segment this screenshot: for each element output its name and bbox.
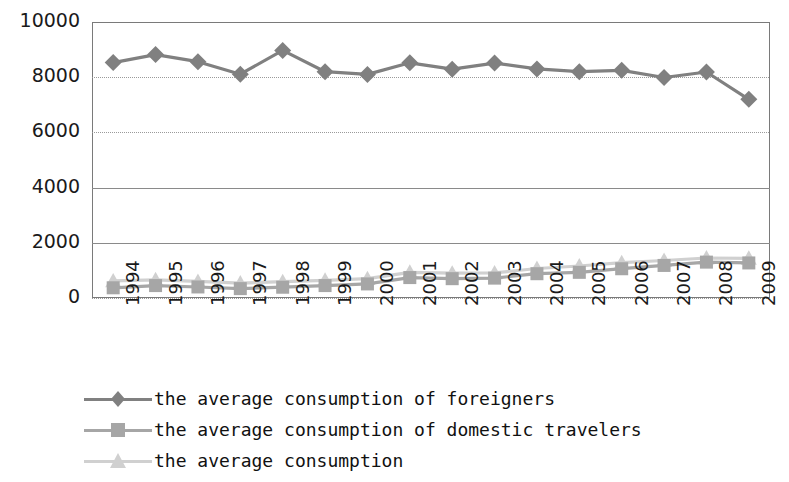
legend-item-1: the average consumption of foreigners bbox=[82, 383, 782, 414]
y-axis-tick-label: 0 bbox=[68, 285, 80, 307]
data-point-marker bbox=[488, 272, 501, 285]
x-axis-tick-label: 2004 bbox=[546, 260, 567, 306]
x-axis-tick-label: 1995 bbox=[165, 260, 186, 306]
x-axis-tick-label: 2007 bbox=[673, 260, 694, 306]
data-point-marker bbox=[530, 267, 543, 280]
data-point-marker bbox=[658, 259, 671, 272]
x-axis-tick-label: 1997 bbox=[249, 260, 270, 306]
data-point-marker bbox=[234, 282, 247, 295]
x-axis-tick-label: 1998 bbox=[292, 260, 313, 306]
data-point-marker bbox=[276, 281, 289, 294]
x-axis-tick-label: 2000 bbox=[376, 260, 397, 306]
x-axis-tick-label: 2005 bbox=[588, 260, 609, 306]
legend-marker-triangle-icon bbox=[82, 448, 154, 474]
data-point-marker bbox=[615, 262, 628, 275]
x-axis-tick-label: 2009 bbox=[758, 260, 779, 306]
legend-item-3: the average consumption bbox=[82, 445, 782, 476]
data-point-marker bbox=[319, 279, 332, 292]
y-axis-tick-label: 8000 bbox=[32, 64, 80, 86]
data-point-marker bbox=[361, 277, 374, 290]
line-chart: 1000080006000400020000 19941995199619971… bbox=[0, 0, 789, 482]
legend-marker-diamond-icon bbox=[82, 386, 154, 412]
data-point-marker bbox=[700, 256, 713, 269]
legend-symbol bbox=[106, 449, 130, 473]
legend-label: the average consumption of foreigners bbox=[154, 388, 555, 409]
chart-legend: the average consumption of foreignersthe… bbox=[82, 383, 782, 476]
data-point-marker bbox=[403, 271, 416, 284]
legend-symbol bbox=[106, 387, 130, 411]
x-axis-tick-label: 2006 bbox=[631, 260, 652, 306]
x-axis-tick-label: 2001 bbox=[419, 260, 440, 306]
x-axis-tick-label: 2003 bbox=[504, 260, 525, 306]
data-point-marker bbox=[573, 266, 586, 279]
x-axis-tick-label: 1999 bbox=[334, 260, 355, 306]
data-point-marker bbox=[742, 256, 755, 269]
legend-item-2: the average consumption of domestic trav… bbox=[82, 414, 782, 445]
x-axis-tick-label: 2008 bbox=[715, 260, 736, 306]
legend-label: the average consumption bbox=[154, 450, 403, 471]
x-axis-tick-label: 1994 bbox=[122, 260, 143, 306]
legend-marker-square-icon bbox=[82, 417, 154, 443]
legend-symbol bbox=[106, 418, 130, 442]
y-axis-tick-label: 10000 bbox=[20, 9, 80, 31]
legend-label: the average consumption of domestic trav… bbox=[154, 419, 642, 440]
y-axis-tick-label: 4000 bbox=[32, 175, 80, 197]
x-axis-tick-label: 1996 bbox=[207, 260, 228, 306]
x-axis-tick-label: 2002 bbox=[461, 260, 482, 306]
data-point-marker bbox=[191, 280, 204, 293]
data-point-marker bbox=[446, 272, 459, 285]
y-axis-tick-label: 6000 bbox=[32, 119, 80, 141]
data-point-marker bbox=[107, 281, 120, 294]
data-point-marker bbox=[149, 279, 162, 292]
y-axis-tick-label: 2000 bbox=[32, 230, 80, 252]
